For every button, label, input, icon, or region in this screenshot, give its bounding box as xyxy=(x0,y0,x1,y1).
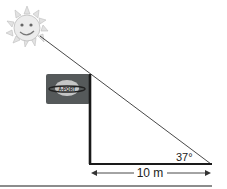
arrow-left-icon xyxy=(91,170,97,176)
distance-dimension: 10 m xyxy=(91,166,211,180)
sun-icon xyxy=(6,6,48,47)
distance-label: 10 m xyxy=(137,166,164,180)
flag: A-PORT xyxy=(46,74,90,104)
flag-logo-text: A-PORT xyxy=(58,87,75,92)
arrow-right-icon xyxy=(205,170,211,176)
diagram-canvas: A-PORT 37° 10 m xyxy=(0,0,227,189)
angle-label: 37° xyxy=(176,151,193,163)
